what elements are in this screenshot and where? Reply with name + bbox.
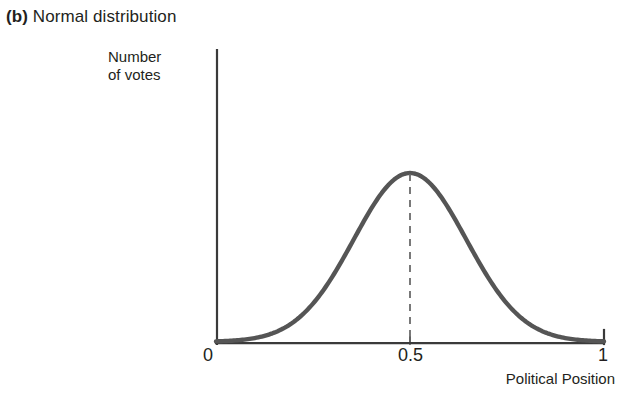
figure-panel: (b) Normal distribution Number of votes …: [0, 0, 620, 395]
x-tick-label-1: 1: [598, 345, 608, 365]
x-tick-label-0-5: 0.5: [398, 345, 423, 365]
chart-plot-area: [0, 0, 620, 395]
x-axis-label: Political Position: [506, 370, 615, 388]
x-tick-label-0: 0: [203, 345, 213, 365]
